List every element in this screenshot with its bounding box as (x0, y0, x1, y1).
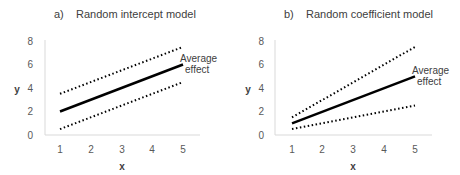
y-axis-label: y (14, 84, 20, 95)
x-tick: 1 (57, 144, 63, 155)
chart-panel-b: b) Random coefficient model 0 2 4 6 8 1 … (230, 0, 460, 175)
x-tick: 5 (412, 144, 418, 155)
y-tick: 2 (27, 106, 33, 117)
y-tick: 4 (258, 83, 264, 94)
plot-a: 0 2 4 6 8 1 2 3 4 5 y x Average effect (0, 0, 230, 175)
annotation-effect: effect (185, 64, 209, 75)
y-tick: 4 (27, 83, 33, 94)
y-axis-label: y (245, 84, 251, 95)
x-axis-label: x (119, 161, 125, 172)
x-tick: 2 (88, 144, 94, 155)
average-effect-line (60, 65, 183, 112)
x-tick: 1 (289, 144, 295, 155)
x-tick: 3 (350, 144, 356, 155)
y-tick: 6 (258, 59, 264, 70)
plot-b: 0 2 4 6 8 1 2 3 4 5 y x Average effect (230, 0, 460, 175)
x-tick: 2 (319, 144, 325, 155)
chart-panel-a: a) Random intercept model 0 2 4 6 8 1 2 … (0, 0, 230, 175)
annotation-effect: effect (417, 76, 441, 87)
average-effect-line (292, 76, 415, 123)
y-tick: 8 (27, 36, 33, 47)
y-tick: 0 (27, 130, 33, 141)
annotation-average: Average (412, 65, 450, 76)
x-tick: 3 (119, 144, 125, 155)
y-tick: 6 (27, 59, 33, 70)
y-tick: 0 (258, 130, 264, 141)
y-tick: 8 (258, 36, 264, 47)
x-tick: 4 (381, 144, 387, 155)
y-tick: 2 (258, 106, 264, 117)
x-tick: 4 (149, 144, 155, 155)
annotation-average: Average (180, 53, 218, 64)
x-tick: 5 (180, 144, 186, 155)
x-axis-label: x (350, 161, 356, 172)
